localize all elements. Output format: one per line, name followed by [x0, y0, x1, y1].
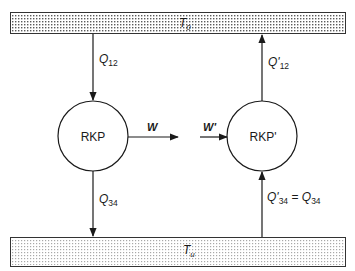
hot-reservoir: T0	[11, 13, 346, 34]
flow-q34-prime-label: Q'34 = Q34	[267, 190, 321, 206]
flow-q12: Q12	[93, 34, 118, 100]
machine-rkp-prime: RKP'	[227, 101, 297, 171]
heat-engine-diagram: T0 Tu RKP RKP' Q12 Q34 Q'12	[0, 0, 355, 271]
machine-rkp: RKP	[58, 101, 128, 171]
flow-q34-prime: Q'34 = Q34	[262, 172, 321, 237]
flow-q12-prime-label: Q'12	[268, 55, 289, 71]
flow-w: W	[128, 121, 178, 137]
flow-q12-label: Q12	[99, 52, 118, 68]
flow-q34: Q34	[93, 171, 118, 236]
flow-q12-prime: Q'12	[262, 35, 289, 101]
flow-w-prime: W'	[200, 121, 227, 137]
flow-w-prime-label: W'	[203, 121, 216, 133]
machine-rkp-label: RKP	[81, 130, 106, 144]
flow-q34-label: Q34	[99, 192, 118, 208]
machine-rkp-prime-label: RKP'	[250, 130, 277, 144]
cold-reservoir: Tu	[11, 238, 346, 267]
flow-w-label: W	[147, 121, 159, 133]
